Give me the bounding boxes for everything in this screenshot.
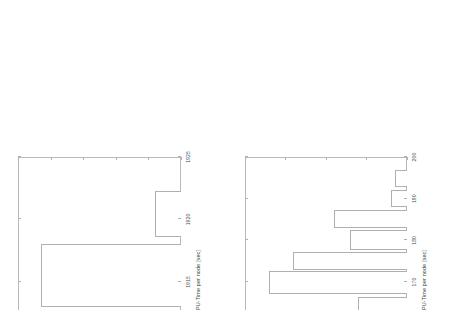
- histogram-bar: [395, 170, 407, 187]
- x-axis-tick-label: 190: [411, 194, 417, 203]
- x-axis-tick-top: [245, 281, 248, 282]
- x-axis-tick: [404, 198, 407, 199]
- y-axis-tick-right: [407, 157, 408, 160]
- x-axis-title: CPU-Time per node [sec]: [195, 250, 201, 310]
- x-axis-tick-label: 180: [411, 236, 417, 245]
- x-axis-tick-label: 1915: [185, 276, 191, 288]
- y-axis-tick-right: [148, 157, 149, 160]
- histogram-bar: [155, 191, 181, 237]
- y-axis-tick-right: [51, 157, 52, 160]
- x-axis-title: CPU-Time per node [sec]: [421, 250, 427, 310]
- x-axis-tick-label: 1920: [185, 214, 191, 226]
- histogram-bar: [269, 271, 407, 294]
- x-axis-tick-top: [18, 219, 21, 220]
- y-axis-tick-right: [366, 157, 367, 160]
- figure-canvas: 1905191019151920192501020304050CPU-Time …: [0, 143, 453, 310]
- histogram-panel-bottom: 14015016017018019020005101520CPU-Time pe…: [227, 143, 453, 310]
- x-axis-tick: [178, 219, 181, 220]
- y-axis-tick-right: [116, 157, 117, 160]
- histogram-bar: [334, 210, 407, 228]
- rotated-figure-stage: 1905191019151920192501020304050CPU-Time …: [0, 143, 453, 310]
- x-axis-tick-top: [245, 198, 248, 199]
- histogram-bar: [358, 297, 407, 310]
- y-axis-tick-right: [18, 157, 19, 160]
- histogram-bar: [391, 190, 407, 207]
- x-axis-tick: [404, 239, 407, 240]
- y-axis-tick-right: [285, 157, 286, 160]
- x-axis-tick-top: [245, 239, 248, 240]
- x-axis-tick-label: 170: [411, 278, 417, 287]
- x-axis-tick-label: 1925: [185, 151, 191, 163]
- histogram-bar: [293, 252, 407, 270]
- x-axis-tick: [178, 281, 181, 282]
- x-axis-tick: [404, 281, 407, 282]
- y-axis-tick-right: [326, 157, 327, 160]
- histogram-panel-top: 1905191019151920192501020304050CPU-Time …: [0, 143, 227, 310]
- y-axis-tick-right: [181, 157, 182, 160]
- y-axis-tick-right: [83, 157, 84, 160]
- histogram-bar: [41, 245, 181, 308]
- x-axis-tick-top: [18, 281, 21, 282]
- histogram-bar: [350, 230, 407, 250]
- y-axis-tick-right: [245, 157, 246, 160]
- x-axis-tick-label: 200: [411, 153, 417, 162]
